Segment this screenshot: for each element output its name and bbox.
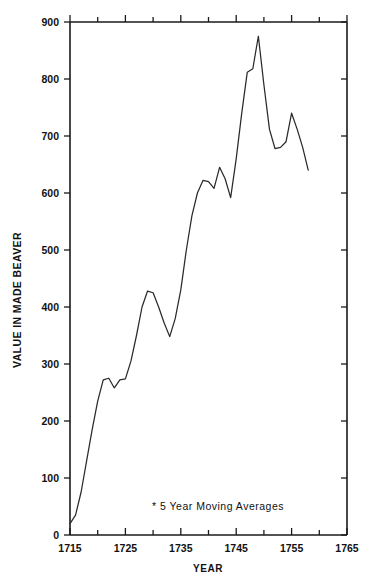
moving-average-note: * 5 Year Moving Averages (152, 500, 284, 512)
y-tick-label-800: 800 (41, 73, 59, 85)
y-axis-title: VALUE IN MADE BEAVER (11, 232, 23, 368)
x-tick-label-1735: 1735 (169, 542, 193, 554)
y-tick-label-700: 700 (41, 130, 59, 142)
chart-figure: 171517251735174517551765 010020030040050… (0, 0, 380, 587)
x-tick-label-1755: 1755 (280, 542, 304, 554)
y-tick-label-100: 100 (41, 472, 59, 484)
y-tick-label-200: 200 (41, 415, 59, 427)
x-axis-ticks (70, 15, 347, 535)
plot-frame (70, 22, 347, 535)
y-tick-label-400: 400 (41, 301, 59, 313)
x-tick-label-1765: 1765 (335, 542, 359, 554)
y-axis-ticks (64, 22, 347, 535)
data-series-line-0 (70, 36, 308, 523)
x-tick-label-1725: 1725 (114, 542, 138, 554)
y-tick-label-0: 0 (53, 529, 59, 541)
y-tick-label-500: 500 (41, 244, 59, 256)
y-tick-label-300: 300 (41, 358, 59, 370)
y-tick-label-900: 900 (41, 16, 59, 28)
y-tick-label-600: 600 (41, 187, 59, 199)
y-axis-tick-labels: 0100200300400500600700800900 (41, 16, 59, 541)
x-tick-label-1745: 1745 (225, 542, 249, 554)
x-axis-title: YEAR (193, 563, 223, 574)
x-tick-label-1715: 1715 (58, 542, 82, 554)
data-series-layer (70, 36, 308, 523)
x-axis-tick-labels: 171517251735174517551765 (58, 542, 359, 554)
line-chart: 171517251735174517551765 010020030040050… (0, 0, 380, 587)
